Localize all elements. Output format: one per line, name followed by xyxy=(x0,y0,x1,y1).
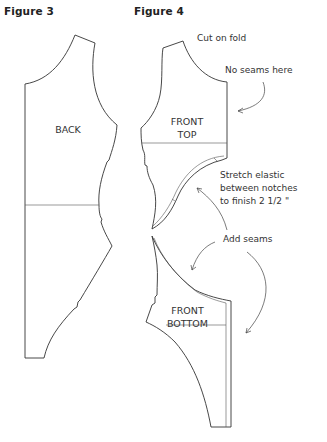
front-top-label-line1: FRONT xyxy=(166,115,208,128)
elastic-note-line1: Stretch elastic xyxy=(220,169,285,183)
cut-on-fold-note: Cut on fold xyxy=(197,32,246,46)
front-top-label-line2: TOP xyxy=(166,128,208,141)
back-pattern-piece xyxy=(25,35,117,358)
no-seams-note: No seams here xyxy=(225,64,292,78)
add-seams-note: Add seams xyxy=(223,233,272,247)
arrow-no-seams-icon xyxy=(238,82,265,111)
arrow-add-seams-2-icon xyxy=(246,252,266,333)
arrow-add-seams-1-icon xyxy=(192,242,215,270)
elastic-note-line2: between notches xyxy=(220,182,297,196)
elastic-note-line3: to finish 2 1/2 " xyxy=(220,195,289,209)
front-bottom-label-line1: FRONT xyxy=(160,304,215,317)
back-label: BACK xyxy=(48,123,88,136)
front-bottom-label-line2: BOTTOM xyxy=(160,317,215,330)
front-bottom-pattern-piece xyxy=(146,236,231,427)
